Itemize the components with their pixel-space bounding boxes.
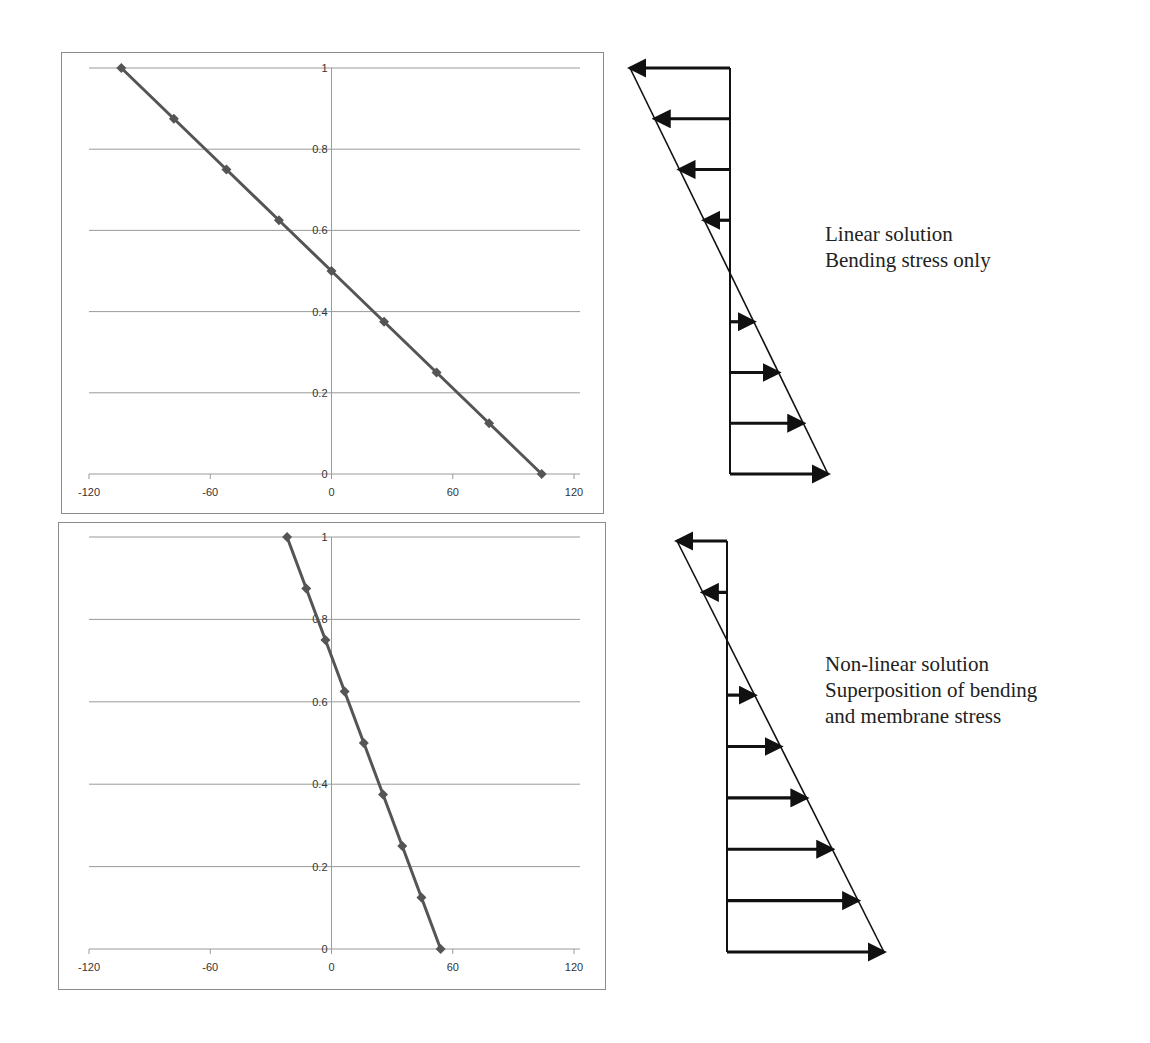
caption-line: Bending stress only bbox=[825, 247, 991, 273]
caption-line: Non-linear solution bbox=[825, 651, 1037, 677]
linear-solution-caption: Linear solution Bending stress only bbox=[825, 221, 991, 273]
caption-line: Linear solution bbox=[825, 221, 991, 247]
nonlinear-solution-caption: Non-linear solution Superposition of ben… bbox=[825, 651, 1037, 729]
caption-line: Superposition of bending bbox=[825, 677, 1037, 703]
nonlinear-stress-distribution-diagram bbox=[0, 0, 1150, 1043]
caption-line: and membrane stress bbox=[825, 703, 1037, 729]
